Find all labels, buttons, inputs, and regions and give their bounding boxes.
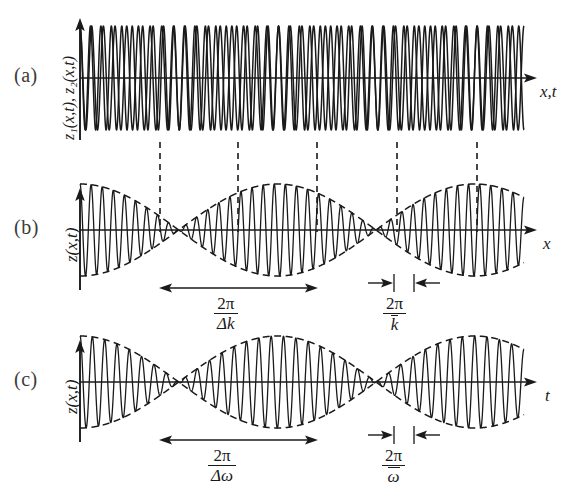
fraction-numerator: 2π [214,295,238,313]
measure-label-2pi-over-k-bar: 2π k [383,295,406,333]
panel-c-wide-measure-arrow [159,435,318,444]
fraction-numerator: 2π [382,447,405,465]
fraction-denominator: k [383,313,406,333]
measure-label-2pi-over-delta-k: 2π Δk [214,295,238,332]
panel-c-x-axis [80,377,537,386]
wave-beats-figure [0,0,574,489]
panel-c-ylabel: z(x,t) [62,380,82,414]
fraction-denominator: ω [382,465,405,485]
panel-b-envelope-lower [80,230,524,276]
panel-c-group [75,336,537,445]
panel-tag-b: (b) [14,216,39,239]
overbar-span: ω [388,467,400,485]
node-guide-lines [160,142,477,232]
panel-b-ylabel: z(x,t) [62,228,82,262]
fraction-numerator: 2π [383,295,406,313]
panel-c-narrow-measure-arrow [368,426,440,444]
overbar-span: k [391,315,399,333]
panel-c-xlabel: t [545,386,550,406]
panel-tag-c: (c) [14,368,38,391]
panel-b-wide-measure-arrow [159,283,318,292]
fraction-denominator: Δω [208,465,236,484]
panel-a-group [75,18,537,140]
panel-tag-a: (a) [14,64,38,87]
panel-a-xlabel: x,t [540,82,557,102]
measure-label-2pi-over-delta-omega: 2π Δω [208,447,236,484]
fraction-numerator: 2π [208,447,236,465]
panel-c-envelope-upper [80,336,524,382]
fraction-denominator: Δk [214,313,238,332]
panel-b-narrow-measure-arrow [368,274,440,292]
panel-b-group [75,184,537,293]
panel-b-xlabel: x [543,234,551,254]
panel-a-ylabel: z₁(x,t), z₂(x,t) [60,56,78,140]
measure-label-2pi-over-omega-bar: 2π ω [382,447,405,485]
